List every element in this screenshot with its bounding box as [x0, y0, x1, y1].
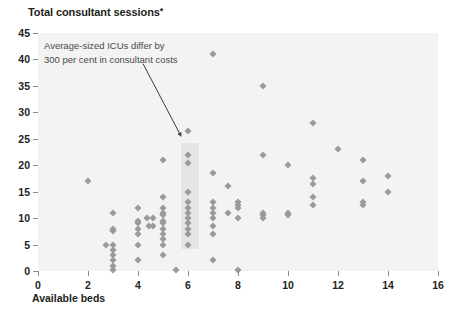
data-point [159, 252, 166, 259]
data-point [384, 172, 391, 179]
y-tick-label: 30 [6, 106, 30, 118]
data-point [149, 222, 156, 229]
x-tick-label: 6 [178, 279, 198, 291]
data-point [309, 193, 316, 200]
data-point [102, 241, 109, 248]
y-tick-label: 40 [6, 53, 30, 65]
x-tick-mark [188, 271, 189, 276]
x-tick-label: 2 [78, 279, 98, 291]
y-tick-label: 25 [6, 133, 30, 145]
y-tick-mark [33, 165, 38, 166]
data-point [259, 151, 266, 158]
x-tick-label: 12 [328, 279, 348, 291]
y-tick-mark [33, 86, 38, 87]
x-tick-label: 10 [278, 279, 298, 291]
y-tick-mark [33, 59, 38, 60]
y-tick-label: 20 [6, 159, 30, 171]
y-tick-label: 10 [6, 212, 30, 224]
data-point [224, 183, 231, 190]
x-tick-label: 4 [128, 279, 148, 291]
data-point [309, 201, 316, 208]
annotation-line-1: Average-sized ICUs differ by [44, 39, 178, 53]
data-point [234, 215, 241, 222]
data-point [384, 188, 391, 195]
chart-title-text: Total consultant sessions [28, 6, 160, 18]
y-tick-mark [33, 218, 38, 219]
data-point [172, 266, 179, 273]
data-point [209, 51, 216, 58]
data-point [159, 193, 166, 200]
chart-annotation: Average-sized ICUs differ by 300 per cen… [44, 39, 178, 66]
data-point [284, 162, 291, 169]
x-tick-label: 16 [428, 279, 448, 291]
y-tick-label: 15 [6, 186, 30, 198]
data-point [209, 230, 216, 237]
x-tick-mark [338, 271, 339, 276]
data-point [109, 209, 116, 216]
x-tick-mark [38, 271, 39, 276]
chart-figure: Total consultant sessions* Available bed… [0, 0, 451, 315]
y-tick-mark [33, 139, 38, 140]
data-point [209, 215, 216, 222]
data-point [334, 146, 341, 153]
x-tick-mark [288, 271, 289, 276]
x-tick-label: 8 [228, 279, 248, 291]
y-tick-label: 35 [6, 80, 30, 92]
y-tick-mark [33, 112, 38, 113]
data-point [134, 257, 141, 264]
plot-area [38, 33, 438, 271]
x-tick-mark [88, 271, 89, 276]
data-point [134, 241, 141, 248]
y-tick-mark [33, 33, 38, 34]
page-title: Total consultant sessions* [28, 6, 163, 18]
data-point [134, 230, 141, 237]
x-tick-mark [138, 271, 139, 276]
x-tick-label: 14 [378, 279, 398, 291]
data-point [309, 180, 316, 187]
data-point [359, 156, 366, 163]
x-axis-label: Available beds [32, 292, 105, 304]
x-tick-mark [238, 271, 239, 276]
data-point [209, 222, 216, 229]
data-point [209, 257, 216, 264]
data-point [284, 212, 291, 219]
annotation-line-2: 300 per cent in consultant costs [44, 53, 178, 67]
y-tick-label: 5 [6, 239, 30, 251]
data-point [159, 241, 166, 248]
data-point [184, 127, 191, 134]
data-point [259, 82, 266, 89]
data-point [149, 215, 156, 222]
y-tick-label: 0 [6, 265, 30, 277]
data-point [159, 156, 166, 163]
data-point [84, 178, 91, 185]
x-tick-label: 0 [28, 279, 48, 291]
data-point [224, 209, 231, 216]
data-point [134, 204, 141, 211]
x-tick-mark [438, 271, 439, 276]
y-tick-label: 45 [6, 27, 30, 39]
data-point [209, 170, 216, 177]
chart-title-footnote-marker: * [160, 6, 163, 16]
x-tick-mark [388, 271, 389, 276]
data-point [309, 119, 316, 126]
data-point [109, 266, 116, 273]
y-tick-mark [33, 192, 38, 193]
y-tick-mark [33, 245, 38, 246]
data-point [359, 178, 366, 185]
